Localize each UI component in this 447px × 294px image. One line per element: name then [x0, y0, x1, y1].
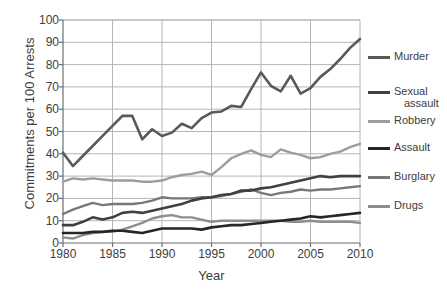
legend-swatch	[368, 56, 390, 59]
legend-label: Assault	[394, 142, 430, 154]
legend-label: Murder	[394, 51, 429, 63]
legend-swatch	[368, 205, 390, 208]
legend-label: Burglary	[394, 171, 435, 183]
legend-label: Drugs	[394, 200, 423, 212]
legend-label: Sexualassault	[394, 86, 439, 109]
legend-item-burglary[interactable]: Burglary	[368, 171, 435, 185]
legend-swatch	[368, 120, 390, 123]
legend-item-assault[interactable]: Assault	[368, 142, 430, 156]
legend-swatch	[368, 176, 390, 179]
legend-swatch	[368, 91, 390, 94]
legend-item-drugs[interactable]: Drugs	[368, 200, 423, 214]
legend-label: Robbery	[394, 115, 436, 127]
legend-swatch	[368, 147, 390, 150]
line-chart: Commitments per 100 Arrests Year 0102030…	[0, 0, 447, 294]
legend-item-robbery[interactable]: Robbery	[368, 115, 436, 129]
legend-item-murder[interactable]: Murder	[368, 51, 429, 65]
legend-item-sexual-assault[interactable]: Sexualassault	[368, 86, 439, 100]
